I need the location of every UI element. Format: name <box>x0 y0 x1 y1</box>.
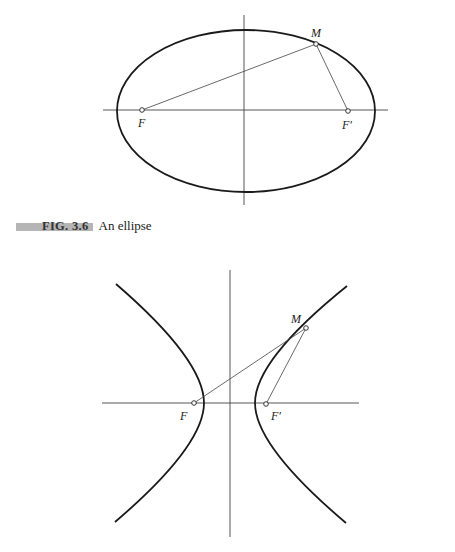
ellipse-label-M: M <box>310 26 322 40</box>
hyperbola-focus-F <box>192 401 197 406</box>
hyperbola-label-F-prime: F′ <box>270 409 281 423</box>
hyperbola-label-M: M <box>290 312 302 326</box>
ellipse-curve <box>117 30 375 192</box>
hyperbola-figure: M F F′ <box>102 270 359 537</box>
caption-title: An ellipse <box>99 218 152 234</box>
hyperbola-segment-FM <box>194 328 306 403</box>
hyperbola-right-branch <box>255 286 347 523</box>
figure-caption: FIG. 3.6 An ellipse <box>16 220 152 234</box>
hyperbola-segment-MF-prime <box>266 328 306 404</box>
ellipse-focus-F-prime <box>346 109 351 114</box>
ellipse-label-F: F <box>137 116 146 130</box>
ellipse-segment-MF-prime <box>316 44 348 111</box>
ellipse-focus-F <box>140 108 145 113</box>
ellipse-segment-FM <box>142 44 316 110</box>
hyperbola-label-F: F <box>179 409 188 423</box>
ellipse-label-F-prime: F′ <box>341 118 352 132</box>
ellipse-point-M <box>314 42 319 47</box>
caption-figure-number: FIG. 3.6 <box>42 219 89 234</box>
figures-canvas: M F F′ M F F′ <box>0 0 455 552</box>
ellipse-figure: M F F′ <box>103 15 388 205</box>
hyperbola-point-M <box>304 326 309 331</box>
hyperbola-focus-F-prime <box>264 402 269 407</box>
